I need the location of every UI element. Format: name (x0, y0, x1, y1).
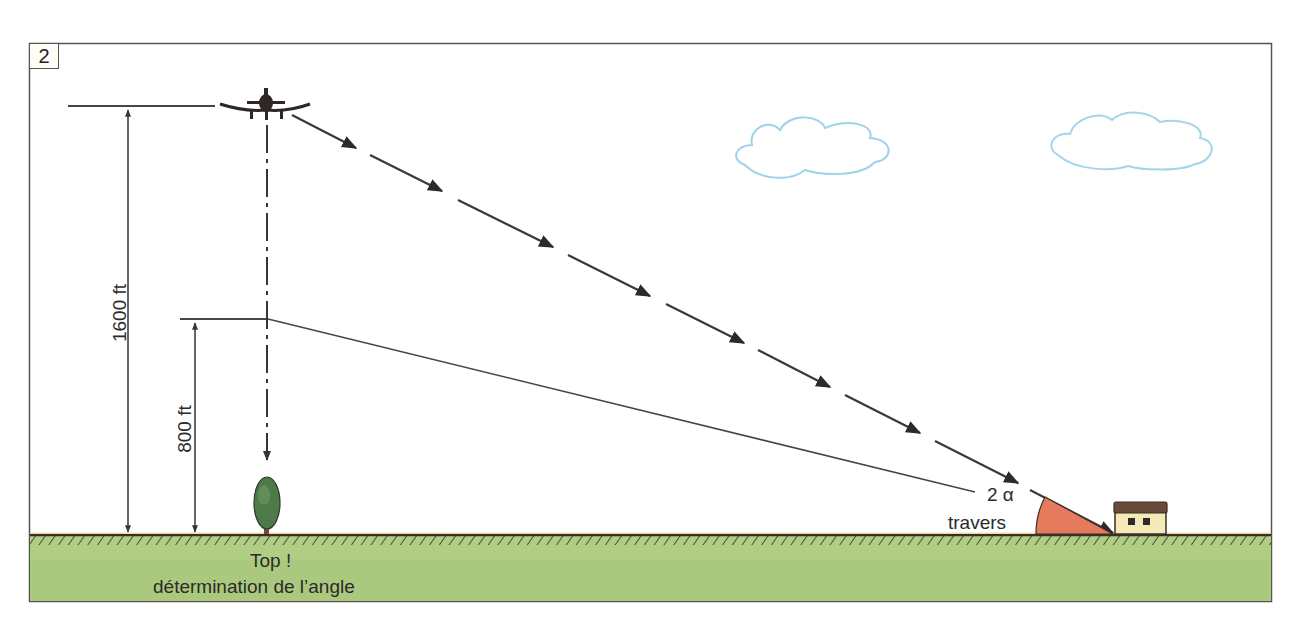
figure-number: 2 (29, 43, 59, 69)
label-2alpha: 2 α (985, 484, 1016, 506)
diagram-svg (0, 0, 1304, 624)
label-1600ft: 1600 ft (109, 273, 131, 353)
label-top: Top ! (250, 550, 291, 572)
label-travers: travers (948, 512, 1006, 534)
label-800ft: 800 ft (174, 394, 196, 464)
diagram-canvas: 2 1600 ft 800 ft Top ! détermination de … (0, 0, 1304, 624)
house-icon (1114, 502, 1167, 534)
label-angle-determination: détermination de l’angle (153, 576, 355, 598)
